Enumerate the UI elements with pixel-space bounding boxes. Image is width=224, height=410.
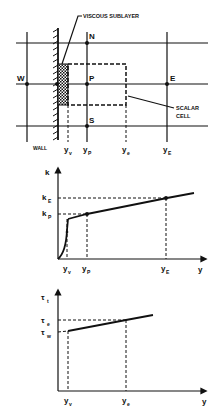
tau-x-axis-label: y <box>202 397 207 406</box>
grid-axis-label-yp: y P <box>83 145 92 156</box>
viscous-sublayer-label: VISCOUS SUBLAYER <box>83 13 139 19</box>
svg-text:E: E <box>166 269 170 275</box>
svg-text:P: P <box>87 269 91 275</box>
tau-line <box>68 315 153 331</box>
label-w: W <box>17 74 25 83</box>
viscous-sublayer-region <box>58 64 68 105</box>
grid-axis-label-yE: y E <box>163 145 172 156</box>
label-wall: WALL <box>33 145 47 151</box>
svg-text:E: E <box>48 198 52 204</box>
tau-plot: τ t y τ e τ w y v y e <box>41 292 207 407</box>
svg-text:k: k <box>42 209 47 218</box>
viscous-sublayer-leader <box>62 16 82 64</box>
tau-tick-ye: y e <box>122 396 130 407</box>
grid-axis-label-yv: y v <box>64 145 72 156</box>
svg-text:τ: τ <box>41 293 45 302</box>
svg-text:τ: τ <box>41 316 45 325</box>
k-tick-kP: k P <box>42 209 52 220</box>
svg-text:e: e <box>127 150 130 156</box>
svg-text:k: k <box>42 193 47 202</box>
svg-text:P: P <box>48 214 52 220</box>
k-tick-yP: y P <box>82 264 91 275</box>
svg-text:τ: τ <box>41 328 45 337</box>
label-e: E <box>170 74 176 83</box>
label-n: N <box>89 32 95 41</box>
node-n <box>85 41 89 45</box>
tau-axis-label: τ t <box>41 293 49 304</box>
svg-text:w: w <box>46 333 51 339</box>
svg-text:P: P <box>88 150 92 156</box>
k-tick-yv: y v <box>63 264 71 275</box>
k-x-axis-label: y <box>198 265 203 274</box>
label-p: P <box>89 74 95 83</box>
wall-function-diagram: VISCOUS SUBLAYER SCALAR CELL N W P E S W… <box>0 0 224 410</box>
grid-axis-label-ye: y e <box>122 145 130 156</box>
svg-text:v: v <box>69 150 72 156</box>
k-tick-kE: k E <box>42 193 52 204</box>
svg-text:v: v <box>68 269 71 275</box>
k-axis-label: k <box>45 168 50 177</box>
tau-tick-w: τ w <box>41 328 51 339</box>
svg-text:t: t <box>47 298 49 304</box>
label-s: S <box>89 116 95 125</box>
tau-w-hline <box>58 331 68 332</box>
k-tick-yE: y E <box>161 264 170 275</box>
svg-text:e: e <box>47 321 50 327</box>
svg-text:v: v <box>69 401 72 407</box>
node-w <box>25 82 29 86</box>
svg-text:E: E <box>168 150 172 156</box>
node-wall <box>55 82 59 86</box>
scalar-cell-label-line1: SCALAR <box>176 105 199 111</box>
tau-tick-e: τ e <box>41 316 50 327</box>
tau-tick-yv: y v <box>64 396 72 407</box>
node-e <box>165 82 169 86</box>
scalar-cell-label-line2: CELL <box>176 113 191 119</box>
grid-section: VISCOUS SUBLAYER SCALAR CELL N W P E S W… <box>16 13 208 156</box>
svg-text:e: e <box>127 401 130 407</box>
k-plot: k y k E k P y v y P y E <box>42 168 204 275</box>
